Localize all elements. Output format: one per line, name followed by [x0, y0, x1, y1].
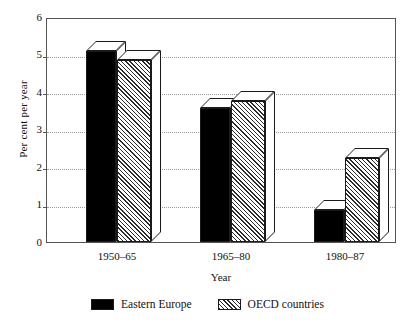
- plot-area: [46, 18, 396, 243]
- y-tick-mark-4: [43, 94, 47, 95]
- y-tick-mark-5: [43, 57, 47, 58]
- legend-item-oecd-countries[interactable]: OECD countries: [218, 298, 324, 310]
- legend-item-eastern-europe[interactable]: Eastern Europe: [91, 298, 192, 310]
- y-tick-label-1: 1: [24, 199, 42, 210]
- solid-black-swatch-icon: [91, 299, 114, 310]
- bar-oecd-countries-1980-87[interactable]: [345, 158, 379, 242]
- y-tick-label-6: 6: [24, 12, 42, 23]
- bar-front-face: [345, 158, 379, 242]
- y-tick-label-0: 0: [24, 237, 42, 248]
- legend-label-eastern-europe: Eastern Europe: [121, 298, 192, 310]
- x-axis-title: Year: [46, 271, 396, 283]
- x-tick-label-1965-80: 1965–80: [176, 250, 286, 262]
- bar-oecd-countries-1950-65[interactable]: [117, 60, 151, 242]
- figure-title: [0, 0, 415, 2]
- legend-label-oecd-countries: OECD countries: [248, 298, 324, 310]
- bar-oecd-countries-1965-80[interactable]: [231, 101, 265, 242]
- bar-front-face: [117, 60, 151, 242]
- y-tick-mark-1: [43, 207, 47, 208]
- y-tick-label-3: 3: [24, 124, 42, 135]
- y-tick-label-2: 2: [24, 162, 42, 173]
- y-tick-label-4: 4: [24, 87, 42, 98]
- bar-front-face: [86, 51, 116, 242]
- hatched-swatch-icon: [218, 299, 241, 310]
- y-tick-mark-2: [43, 169, 47, 170]
- bar-eastern-europe-1950-65[interactable]: [86, 51, 116, 242]
- bar-eastern-europe-1980-87[interactable]: [314, 210, 344, 242]
- x-tick-label-1980-87: 1980–87: [290, 250, 400, 262]
- bar-front-face: [314, 210, 344, 242]
- bar-front-face: [231, 101, 265, 242]
- y-tick-label-5: 5: [24, 49, 42, 60]
- chart-legend: Eastern Europe OECD countries: [0, 298, 415, 310]
- bar-side-face: [379, 148, 389, 242]
- bar-side-face: [151, 50, 161, 242]
- y-tick-mark-3: [43, 132, 47, 133]
- bar-side-face: [265, 91, 275, 242]
- bar-eastern-europe-1965-80[interactable]: [200, 108, 230, 242]
- bar-chart-figure: Per cent per year 6 5 4 3 2 1 0: [0, 0, 415, 329]
- x-tick-label-1950-65: 1950–65: [62, 250, 172, 262]
- bar-front-face: [200, 108, 230, 242]
